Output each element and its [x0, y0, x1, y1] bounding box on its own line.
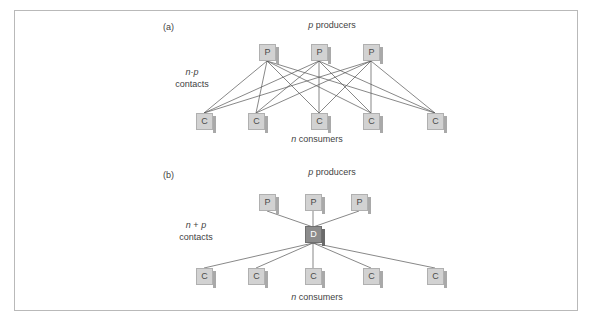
figure-border [14, 10, 578, 311]
figure-root: (a) p producers n·p contacts n consumers… [0, 0, 595, 324]
